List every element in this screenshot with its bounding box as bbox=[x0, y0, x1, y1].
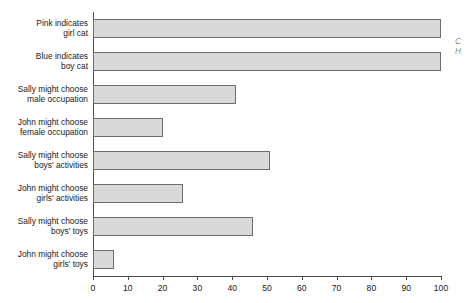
x-axis-tick-label: 70 bbox=[332, 283, 342, 293]
bar-row bbox=[93, 118, 441, 137]
bar bbox=[93, 118, 163, 137]
bar bbox=[93, 184, 183, 203]
x-axis-tick bbox=[163, 276, 164, 280]
category-label: Sally might choose boys' activities bbox=[0, 150, 88, 171]
edge-note-text: C H bbox=[455, 36, 473, 56]
category-label: Sally might choose male occupation bbox=[0, 84, 88, 105]
bar-chart: Pink indicates girl catBlue indicates bo… bbox=[0, 0, 473, 303]
x-axis-tick-label: 50 bbox=[262, 283, 272, 293]
x-axis-tick bbox=[93, 276, 94, 280]
x-axis-tick bbox=[441, 276, 442, 280]
x-axis-tick bbox=[197, 276, 198, 280]
x-axis-tick bbox=[371, 276, 372, 280]
x-axis-tick bbox=[128, 276, 129, 280]
x-axis-tick-label: 90 bbox=[401, 283, 411, 293]
bar-row bbox=[93, 217, 441, 236]
bar bbox=[93, 52, 441, 71]
bar-row bbox=[93, 52, 441, 71]
bar bbox=[93, 19, 441, 38]
x-axis-tick-label: 0 bbox=[91, 283, 96, 293]
x-axis-tick-label: 40 bbox=[227, 283, 237, 293]
bar-row bbox=[93, 19, 441, 38]
bar-row bbox=[93, 184, 441, 203]
plot-area bbox=[93, 12, 441, 276]
x-axis-tick-label: 60 bbox=[297, 283, 307, 293]
category-label: John might choose girls' activities bbox=[0, 183, 88, 204]
bar bbox=[93, 250, 114, 269]
bar bbox=[93, 217, 253, 236]
x-axis-tick bbox=[267, 276, 268, 280]
bar bbox=[93, 151, 270, 170]
bar-row bbox=[93, 151, 441, 170]
bar bbox=[93, 85, 236, 104]
category-label: John might choose girls' toys bbox=[0, 249, 88, 270]
x-axis-tick bbox=[232, 276, 233, 280]
x-axis-tick-label: 10 bbox=[123, 283, 133, 293]
x-axis-tick-label: 20 bbox=[158, 283, 168, 293]
category-axis-labels: Pink indicates girl catBlue indicates bo… bbox=[0, 12, 88, 276]
category-label: Sally might choose boys' toys bbox=[0, 216, 88, 237]
bar-row bbox=[93, 250, 441, 269]
x-axis-tick bbox=[337, 276, 338, 280]
x-axis-tick bbox=[302, 276, 303, 280]
x-axis-tick-label: 100 bbox=[434, 283, 448, 293]
x-axis-tick bbox=[406, 276, 407, 280]
category-label: Pink indicates girl cat bbox=[0, 18, 88, 39]
category-label: John might choose female occupation bbox=[0, 117, 88, 138]
bar-row bbox=[93, 85, 441, 104]
x-axis-tick-label: 80 bbox=[367, 283, 377, 293]
category-label: Blue indicates boy cat bbox=[0, 51, 88, 72]
x-axis-tick-label: 30 bbox=[193, 283, 203, 293]
